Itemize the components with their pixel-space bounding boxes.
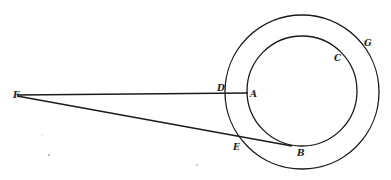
speck — [48, 154, 50, 156]
line-f-a — [17, 93, 248, 95]
label-b: B — [296, 148, 305, 158]
line-f-b — [17, 96, 292, 146]
speck — [42, 135, 43, 136]
label-e: E — [232, 142, 240, 152]
label-c: C — [334, 53, 342, 63]
label-g: G — [364, 38, 372, 48]
label-d: D — [216, 83, 225, 93]
label-a: A — [249, 89, 257, 99]
diagram-canvas: F D A E B C G — [0, 0, 391, 180]
speck — [196, 164, 197, 165]
label-f: F — [12, 90, 20, 100]
